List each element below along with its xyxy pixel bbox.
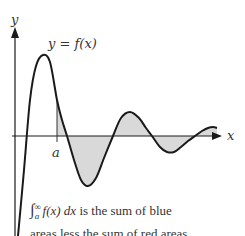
y-axis-label: y (10, 12, 19, 27)
integral-expression: ∫∞a f(x) dx (30, 203, 76, 218)
a-label: a (52, 145, 60, 160)
integrand: f(x) dx (43, 203, 77, 218)
caption-line-1: is the sum of blue (76, 203, 172, 218)
lower-limit: a (35, 211, 40, 221)
curve-label: y = f(x) (47, 36, 97, 51)
y-axis-arrow-icon (11, 27, 19, 38)
x-axis-label: x (227, 128, 235, 143)
caption-line-2: areas less the sum of red areas (30, 226, 187, 236)
caption: ∫∞a f(x) dx is the sum of blue areas les… (30, 198, 242, 236)
